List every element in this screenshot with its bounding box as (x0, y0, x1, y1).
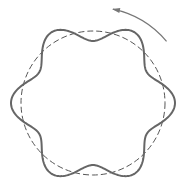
wavy-six-lobed-ring (11, 30, 175, 176)
diagram-svg (0, 0, 190, 190)
rotation-arrowhead-icon (112, 8, 120, 13)
diagram-canvas: Six-lobed wavy ring overlaid on a dashed… (0, 0, 190, 190)
